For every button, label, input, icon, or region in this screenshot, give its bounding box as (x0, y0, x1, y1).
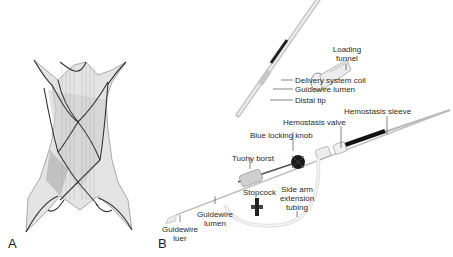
panel-letter-b: B (158, 236, 167, 251)
label-guidewire-luer-line1: Guidewire (161, 225, 199, 234)
label-guidewire-lumen: Guidewire lumen (196, 210, 234, 228)
label-tuohy-borst: Tuohy borst (232, 154, 274, 163)
valve-stent-frame (26, 60, 132, 232)
label-side-arm-extension-tubing: Side arm extension tubing (276, 185, 318, 212)
label-guidewire-luer-line2: luer (161, 234, 199, 243)
label-guidewire-lumen-top: Guidewire lumen (295, 85, 355, 94)
label-side-arm-line3: tubing (276, 203, 318, 212)
label-side-arm-line1: Side arm (276, 185, 318, 194)
label-guidewire-lumen-line2: lumen (196, 219, 234, 228)
label-loading-funnel-line2: funnel (330, 54, 364, 63)
label-guidewire-luer: Guidewire luer (161, 225, 199, 243)
label-side-arm-line2: extension (276, 194, 318, 203)
label-hemostasis-valve: Hemostasis valve (283, 118, 346, 127)
label-loading-funnel-line1: Loading (330, 45, 364, 54)
label-stopcock: Stopcock (243, 188, 276, 197)
panel-letter-a: A (8, 236, 17, 251)
label-loading-funnel: Loading funnel (330, 45, 364, 63)
label-delivery-system-coil: Delivery system coil (295, 76, 366, 85)
label-hemostasis-sleeve: Hemostasis sleeve (344, 107, 411, 116)
label-blue-locking-knob: Blue locking knob (250, 131, 313, 140)
label-guidewire-lumen-line1: Guidewire (196, 210, 234, 219)
label-distal-tip: Distal tip (295, 96, 326, 105)
